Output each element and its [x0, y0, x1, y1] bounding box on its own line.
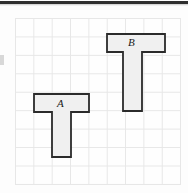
- tee-shape-b[interactable]: [107, 34, 165, 111]
- shape-label-a: A: [57, 98, 64, 109]
- shapes-layer: [0, 0, 188, 193]
- figure-canvas: A B: [0, 0, 188, 193]
- shape-label-b: B: [128, 37, 135, 48]
